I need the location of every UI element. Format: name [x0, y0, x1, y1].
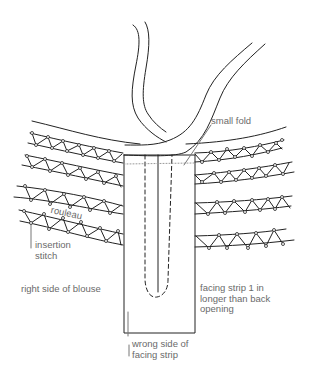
rouleau-strand-right	[124, 43, 265, 156]
insertion-stitch-right	[195, 140, 294, 248]
neckline-right-edge	[186, 127, 286, 144]
label-wrong-side-of-facing-strip: wrong side of facing strip	[132, 339, 189, 360]
diagram-canvas: small fold rouleau insertion stitch righ…	[0, 0, 311, 373]
label-small-fold: small fold	[211, 116, 251, 127]
neckline-left-edge	[32, 121, 140, 144]
label-facing-strip-note: facing strip 1 in longer than back openi…	[200, 283, 270, 315]
stitch-dots	[23, 132, 285, 250]
insertion-stitch-left	[14, 133, 123, 245]
rouleau-strand-left	[132, 22, 166, 142]
small-fold-line	[124, 163, 194, 164]
label-right-side-of-blouse: right side of blouse	[21, 284, 101, 295]
label-insertion-stitch: insertion stitch	[35, 240, 71, 261]
small-fold-leader	[184, 125, 211, 165]
facing-strip	[124, 155, 195, 333]
